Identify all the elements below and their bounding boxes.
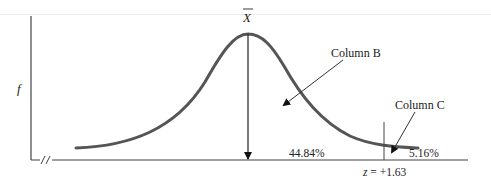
z-value-label: z = +1.63 [362,166,407,178]
mean-label: X [242,9,253,25]
area-between-label: 44.84% [289,147,325,159]
column-b-label: Column B [331,46,381,60]
tail-area-label: 5.16% [409,147,439,159]
column-c-label: Column C [395,98,445,112]
svg-text:X: X [242,10,252,25]
mean-arrowhead-icon [244,152,252,160]
normal-curve-diagram: f X Column B Column C 44.84% 5.16% z = +… [0,0,491,185]
axis-break-icon [40,155,52,164]
y-axis-label: f [17,81,23,96]
